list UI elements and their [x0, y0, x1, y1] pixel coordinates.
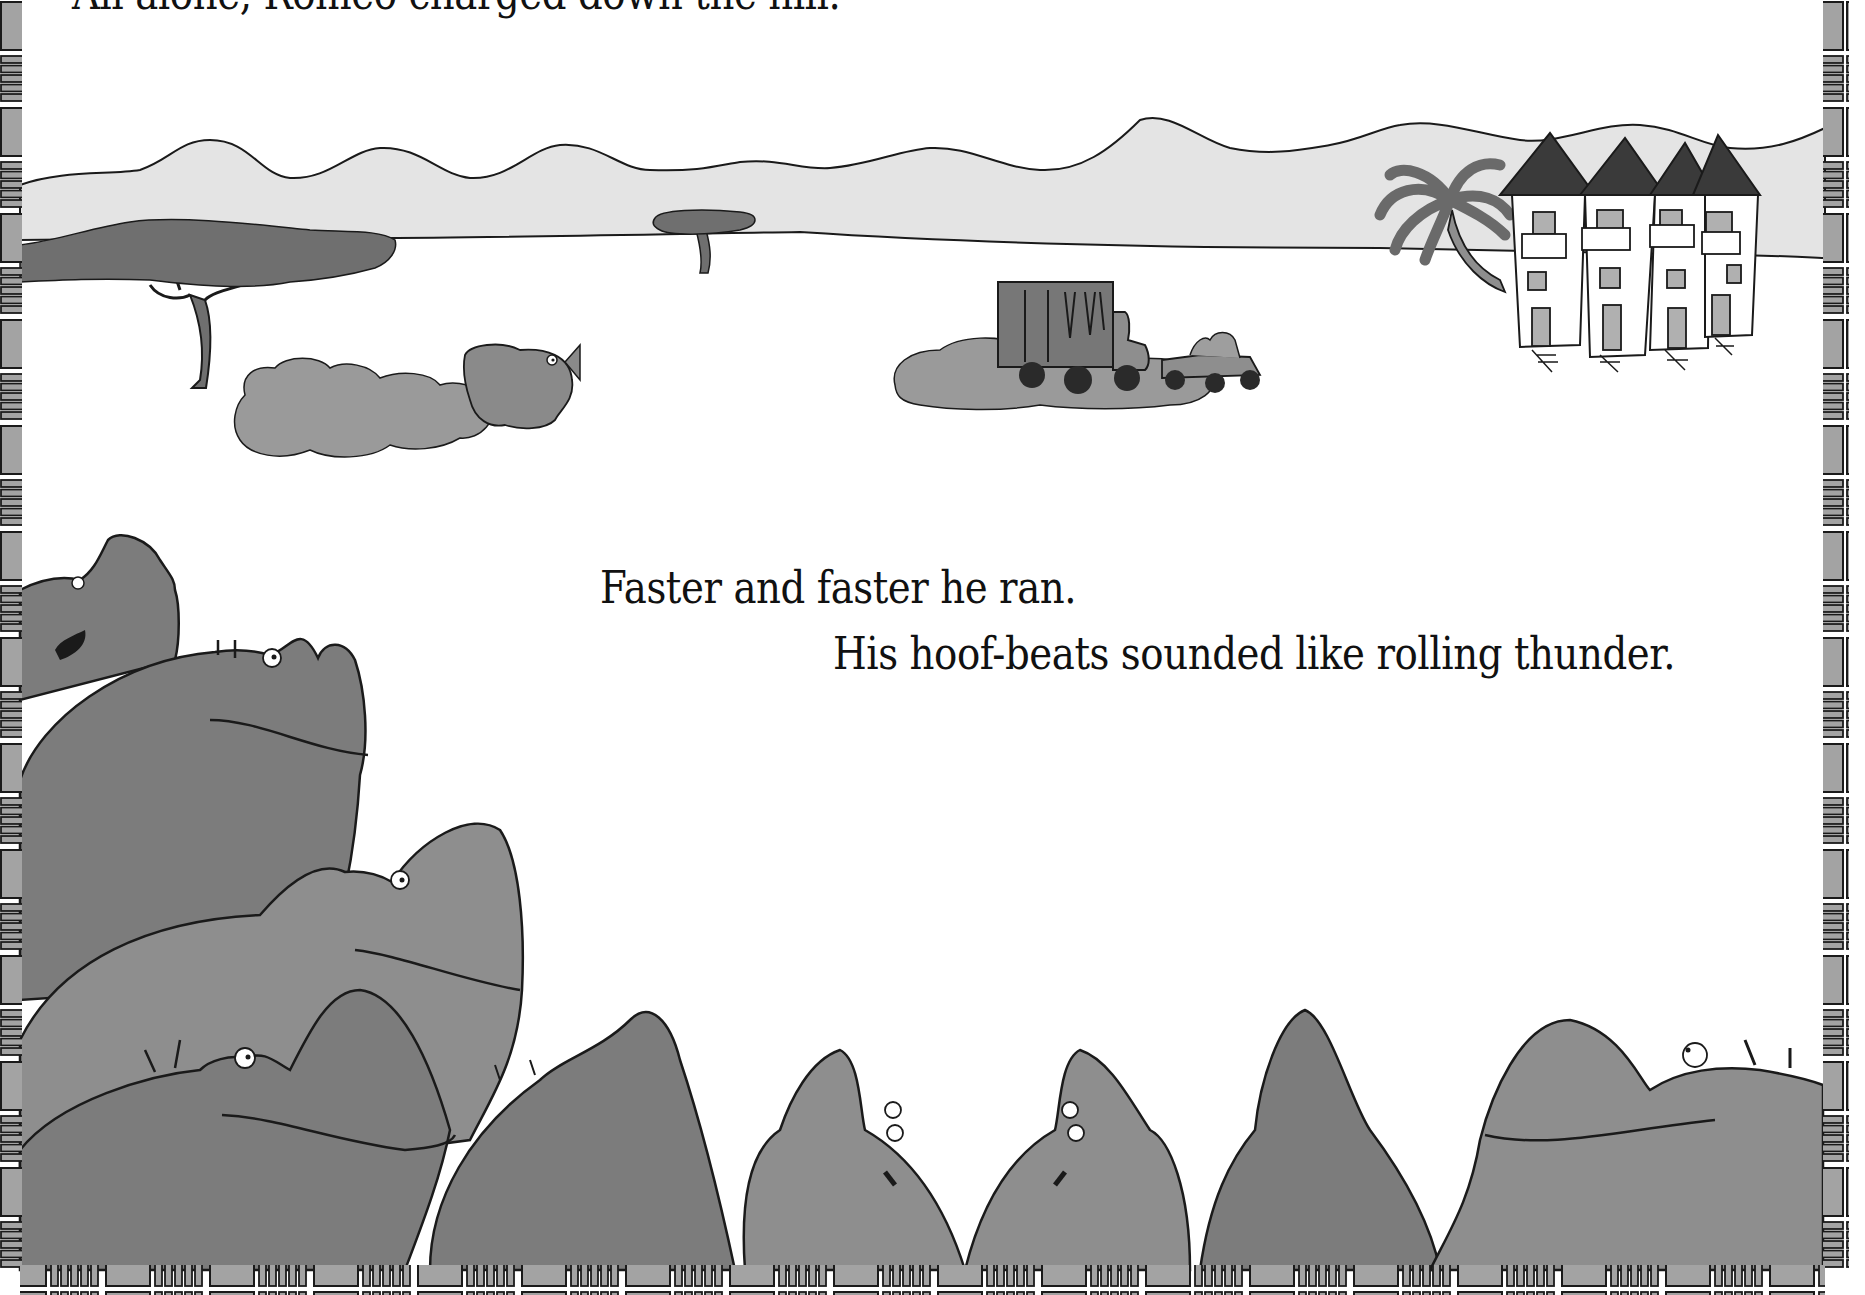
hippo-bottom-3	[744, 1050, 965, 1270]
hippo-bottom-4	[965, 1050, 1190, 1270]
hippo-bottom-5	[1200, 1010, 1440, 1270]
story-text-line-1: Faster and faster he ran.	[600, 562, 1076, 613]
story-text-line-2: His hoof-beats sounded like rolling thun…	[833, 628, 1675, 679]
story-text-top: All alone, Romeo charged down the hill.	[72, 0, 840, 19]
truck-and-jeep	[894, 282, 1260, 410]
right-border	[1823, 0, 1849, 1270]
small-acacia-tree	[653, 210, 755, 273]
book-page: All alone, Romeo charged down the hill. …	[0, 0, 1865, 1295]
bottom-border	[20, 1265, 1825, 1295]
charging-rhino-romeo	[235, 345, 580, 457]
large-acacia-tree	[20, 220, 396, 388]
village-huts	[1500, 133, 1760, 372]
hippo-bottom-right	[1430, 1020, 1823, 1270]
left-border	[0, 0, 22, 1270]
